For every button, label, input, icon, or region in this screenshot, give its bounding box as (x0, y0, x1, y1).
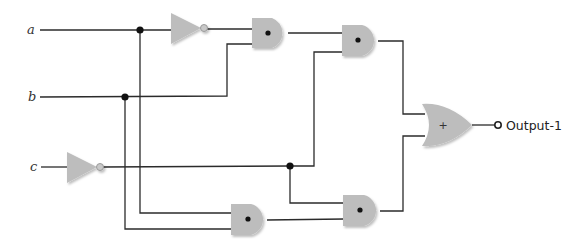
and-symbol-icon (357, 207, 362, 212)
and-symbol-icon (245, 216, 250, 221)
wire-b (40, 44, 252, 97)
wire-and2-or (378, 41, 425, 114)
wire-b-branch (125, 97, 232, 229)
input-label-b: b (28, 89, 36, 104)
wire-and4-or (380, 136, 425, 211)
logic-circuit-diagram: a b c (0, 0, 577, 250)
and-symbol-icon (265, 30, 270, 35)
input-label-a: a (27, 22, 35, 37)
not-bubble-icon (201, 25, 208, 32)
output-pin-icon (495, 122, 501, 128)
not-gate-2 (67, 152, 104, 183)
junction-not-c (286, 162, 293, 169)
or-gate: + (422, 104, 472, 146)
and-gate-1 (252, 18, 282, 48)
input-label-c: c (30, 159, 38, 174)
or-symbol-icon: + (438, 119, 447, 132)
junction-b (121, 93, 128, 100)
and-gate-4 (343, 195, 376, 226)
output-label: Output-1 (506, 118, 562, 133)
junction-a (136, 26, 143, 33)
wire-not2-and4 (290, 166, 344, 203)
and-gate-3 (231, 204, 263, 235)
wire-a-branch (140, 30, 232, 213)
not-gate-1 (171, 13, 208, 44)
wire-not2-out (103, 52, 342, 167)
wires (40, 29, 495, 229)
and-gate-2 (342, 25, 374, 56)
not-bubble-icon (97, 164, 104, 171)
and-symbol-icon (355, 37, 360, 42)
wire-and3-and4 (267, 219, 344, 220)
